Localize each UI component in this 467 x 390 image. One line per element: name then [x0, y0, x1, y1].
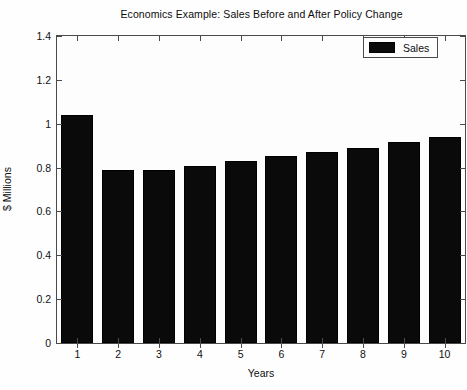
y-tick-right-0.2 [460, 299, 465, 300]
x-tick-inner-7 [322, 338, 323, 343]
x-tick-top-4 [200, 36, 201, 41]
y-tick-0.6 [57, 211, 62, 212]
x-tick-label-1: 1 [74, 348, 80, 360]
y-tick-1.2 [57, 80, 62, 81]
x-tick-label-3: 3 [156, 348, 162, 360]
x-axis-title: Years [56, 367, 466, 379]
y-tick-right-1.4 [460, 36, 465, 37]
y-tick-0.4 [57, 255, 62, 256]
y-tick-0 [57, 343, 62, 344]
legend-swatch-sales [369, 42, 395, 53]
y-tick-label-0.8: 0.8 [36, 162, 51, 174]
x-tick-label-5: 5 [238, 348, 244, 360]
x-tick-top-5 [241, 36, 242, 41]
y-tick-1 [57, 124, 62, 125]
y-tick-right-0.4 [460, 255, 465, 256]
x-tick-label-8: 8 [360, 348, 366, 360]
bar-10 [429, 137, 461, 343]
x-tick-label-10: 10 [439, 348, 451, 360]
y-tick-label-0: 0 [45, 337, 51, 349]
bar-7 [306, 152, 338, 343]
x-tick-label-6: 6 [278, 348, 284, 360]
bar-6 [265, 156, 297, 343]
y-tick-right-0.6 [460, 211, 465, 212]
x-tick-top-2 [118, 36, 119, 41]
x-tick-inner-1 [77, 338, 78, 343]
x-tick-inner-6 [281, 338, 282, 343]
x-tick-inner-3 [159, 338, 160, 343]
y-tick-label-1.4: 1.4 [36, 30, 51, 42]
chart-title: Economics Example: Sales Before and Afte… [56, 8, 467, 20]
x-tick-top-10 [445, 36, 446, 41]
legend-label-sales: Sales [403, 42, 429, 54]
y-tick-right-1.2 [460, 80, 465, 81]
bar-5 [225, 161, 257, 343]
bar-4 [184, 166, 216, 343]
x-tick-inner-4 [200, 338, 201, 343]
y-axis-title: $ Millions [1, 167, 13, 211]
bar-2 [102, 170, 134, 343]
x-tick-label-2: 2 [115, 348, 121, 360]
bar-9 [388, 142, 420, 343]
y-tick-0.2 [57, 299, 62, 300]
y-tick-label-0.6: 0.6 [36, 205, 51, 217]
x-tick-inner-8 [363, 338, 364, 343]
bar-3 [143, 170, 175, 343]
y-tick-right-0.8 [460, 168, 465, 169]
x-tick-inner-10 [445, 338, 446, 343]
x-tick-inner-5 [241, 338, 242, 343]
x-tick-inner-2 [118, 338, 119, 343]
y-tick-label-0.4: 0.4 [36, 249, 51, 261]
y-tick-0.8 [57, 168, 62, 169]
plot-area: 1234567891000.20.40.60.811.21.4 [56, 35, 466, 344]
plot-inner: 1234567891000.20.40.60.811.21.4 [57, 36, 465, 343]
y-tick-right-0 [460, 343, 465, 344]
y-tick-right-1 [460, 124, 465, 125]
x-tick-label-7: 7 [319, 348, 325, 360]
x-tick-label-9: 9 [401, 348, 407, 360]
y-tick-1.4 [57, 36, 62, 37]
y-tick-label-1: 1 [45, 118, 51, 130]
y-tick-label-1.2: 1.2 [36, 74, 51, 86]
x-tick-top-6 [281, 36, 282, 41]
x-tick-top-1 [77, 36, 78, 41]
bar-1 [61, 115, 93, 343]
x-tick-top-7 [322, 36, 323, 41]
legend: Sales [363, 37, 438, 58]
y-tick-label-0.2: 0.2 [36, 293, 51, 305]
x-tick-top-3 [159, 36, 160, 41]
x-tick-label-4: 4 [197, 348, 203, 360]
bar-8 [347, 148, 379, 343]
x-tick-inner-9 [404, 338, 405, 343]
